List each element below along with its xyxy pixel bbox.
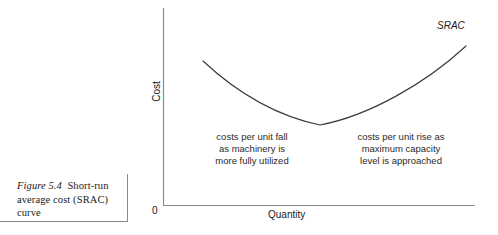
origin-label: 0 xyxy=(152,205,158,216)
annotation-right: costs per unit rise asmaximum capacityle… xyxy=(336,131,466,168)
x-axis-label: Quantity xyxy=(268,209,305,220)
annotation-left: costs per unit fallas machinery ismore f… xyxy=(192,131,312,168)
figure-number: Figure 5.4 xyxy=(17,180,62,191)
srac-curve-label: SRAC xyxy=(437,20,465,31)
y-axis-label: Cost xyxy=(151,66,162,118)
figure-page: SRAC Cost Quantity 0 costs per unit fall… xyxy=(0,0,498,235)
figure-caption-block: Figure 5.4 Short-run average cost (SRAC)… xyxy=(0,174,128,222)
srac-curve xyxy=(203,46,466,125)
figure-caption-text: Figure 5.4 Short-run average cost (SRAC)… xyxy=(17,179,123,220)
